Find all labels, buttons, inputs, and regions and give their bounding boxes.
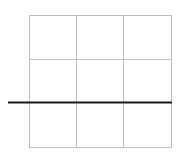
grid-diagram <box>0 0 181 157</box>
grid-lines <box>29 15 172 148</box>
